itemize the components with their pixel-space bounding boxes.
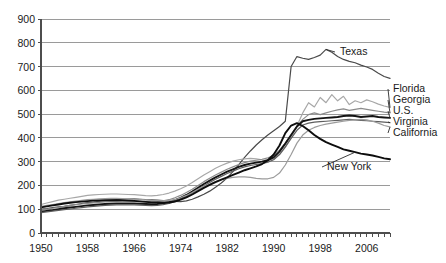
y-tick-label: 100 [17, 203, 35, 215]
x-tick-label: 1982 [215, 242, 239, 254]
y-tick-label: 500 [17, 108, 35, 120]
x-tick-label: 1974 [169, 242, 193, 254]
y-axis-tick-labels: 0100200300400500600700800900 [17, 13, 35, 239]
data-series-group [41, 49, 390, 212]
x-tick-label: 1950 [29, 242, 53, 254]
x-axis-tick-labels: 19501958196619741982199019982006 [29, 242, 378, 254]
x-tick-label: 1998 [309, 242, 333, 254]
y-tick-label: 800 [17, 37, 35, 49]
y-tick-label: 400 [17, 132, 35, 144]
y-tick-label: 0 [29, 227, 35, 239]
leader-line-california [388, 127, 390, 133]
x-tick-label: 2006 [355, 242, 379, 254]
y-tick-label: 600 [17, 84, 35, 96]
y-tick-label: 700 [17, 61, 35, 73]
x-tick-label: 1966 [122, 242, 146, 254]
series-label-new-york: New York [327, 160, 372, 172]
y-tick-label: 300 [17, 156, 35, 168]
series-label-california: California [393, 126, 438, 138]
series-labels: TexasFloridaGeorgiaU.S.VirginiaCaliforni… [322, 45, 438, 172]
line-chart: 0100200300400500600700800900 19501958196… [0, 0, 446, 263]
x-tick-label: 1990 [262, 242, 286, 254]
chart-canvas: 0100200300400500600700800900 19501958196… [0, 0, 446, 263]
gridlines [41, 19, 390, 209]
y-tick-label: 200 [17, 179, 35, 191]
x-tick-label: 1958 [76, 242, 100, 254]
series-label-texas: Texas [340, 45, 367, 57]
y-tick-label: 900 [17, 13, 35, 25]
